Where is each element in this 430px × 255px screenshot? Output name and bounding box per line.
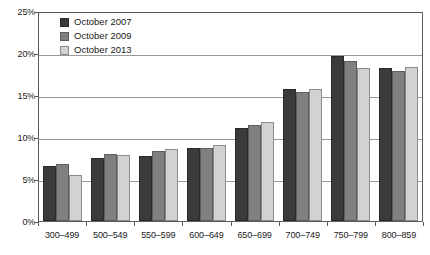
legend-swatch-icon xyxy=(60,32,69,41)
grouped-bar-chart: 0%5%10%15%20%25% 300–499500–549550–59960… xyxy=(0,0,430,255)
x-axis-tick-label: 800–859 xyxy=(382,230,416,240)
x-axis-tick-mark xyxy=(279,222,280,226)
bar[interactable] xyxy=(248,125,261,221)
legend-item-label: October 2009 xyxy=(74,31,132,41)
bar-group xyxy=(379,13,418,221)
chart-legend: October 2007October 2009October 2013 xyxy=(60,16,132,56)
bar-group xyxy=(187,13,226,221)
bar[interactable] xyxy=(283,89,296,221)
legend-swatch-icon xyxy=(60,18,69,27)
bar[interactable] xyxy=(213,145,226,221)
bar[interactable] xyxy=(91,158,104,221)
x-axis-tick-mark xyxy=(375,222,376,226)
y-axis-tick-label: 10% xyxy=(1,134,35,143)
bar[interactable] xyxy=(165,149,178,221)
legend-item-label: October 2007 xyxy=(74,17,132,27)
bar[interactable] xyxy=(69,175,82,221)
bar-group xyxy=(235,13,274,221)
legend-item[interactable]: October 2009 xyxy=(60,30,132,42)
bar[interactable] xyxy=(200,148,213,221)
x-axis-tick-mark xyxy=(423,222,424,226)
bar[interactable] xyxy=(56,164,69,221)
x-axis-tick-label: 600–649 xyxy=(189,230,223,240)
bar-group xyxy=(331,13,370,221)
bar[interactable] xyxy=(405,67,418,221)
x-axis-tick-label: 550–599 xyxy=(141,230,175,240)
bar-group xyxy=(139,13,178,221)
bar[interactable] xyxy=(261,122,274,221)
x-axis-tick-mark xyxy=(327,222,328,226)
x-axis-tick-label: 750–799 xyxy=(334,230,368,240)
bar[interactable] xyxy=(357,68,370,221)
y-axis-tick-label: 25% xyxy=(1,8,35,17)
x-axis-tick-label: 650–699 xyxy=(237,230,271,240)
y-axis-tick-label: 20% xyxy=(1,50,35,59)
x-axis-tick-mark xyxy=(231,222,232,226)
bar[interactable] xyxy=(187,148,200,221)
bar[interactable] xyxy=(331,56,344,221)
legend-item[interactable]: October 2013 xyxy=(60,44,132,56)
bar[interactable] xyxy=(344,61,357,221)
legend-item[interactable]: October 2007 xyxy=(60,16,132,28)
y-axis-tick-label: 5% xyxy=(1,176,35,185)
x-axis-tick-mark xyxy=(86,222,87,226)
legend-item-label: October 2013 xyxy=(74,45,132,55)
bar[interactable] xyxy=(392,71,405,221)
bar[interactable] xyxy=(104,154,117,221)
x-axis-tick-label: 700–749 xyxy=(286,230,320,240)
bar-group xyxy=(283,13,322,221)
x-axis-tick-mark xyxy=(182,222,183,226)
x-axis-tick-mark xyxy=(38,222,39,226)
bar[interactable] xyxy=(379,68,392,221)
bar[interactable] xyxy=(296,92,309,221)
y-axis-tick-label: 15% xyxy=(1,92,35,101)
bar[interactable] xyxy=(309,89,322,221)
bar[interactable] xyxy=(117,155,130,221)
bar[interactable] xyxy=(43,166,56,221)
y-axis-tick-label: 0% xyxy=(1,218,35,227)
x-axis-tick-label: 500–549 xyxy=(93,230,127,240)
x-axis-tick-mark xyxy=(134,222,135,226)
bar[interactable] xyxy=(139,156,152,221)
x-axis-tick-label: 300–499 xyxy=(45,230,79,240)
legend-swatch-icon xyxy=(60,46,69,55)
bar[interactable] xyxy=(235,128,248,221)
bar[interactable] xyxy=(152,151,165,221)
